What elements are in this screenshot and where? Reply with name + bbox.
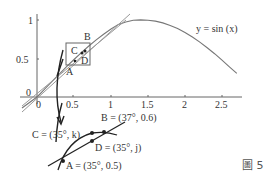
y-tick-1: 1 (28, 15, 33, 26)
y-tick-0: 0 (26, 87, 31, 98)
zoom-label-c: C = (35°, k) (32, 129, 80, 141)
zoom-point-a (61, 159, 65, 163)
label-d: D (81, 55, 88, 66)
x-tick-2: 2 (182, 99, 187, 110)
label-a: A (66, 66, 74, 77)
figure-caption: 圖 5 (242, 159, 264, 172)
zoom-label-a: A = (35°, 0.5) (66, 160, 121, 172)
point-b-dot (84, 50, 87, 53)
x-tick-2.5: 2.5 (215, 99, 228, 110)
x-tick-1.5: 1.5 (141, 99, 154, 110)
sine-diagram: 0 0.5 1 1.5 2 2.5 0 0.5 1 A B C D y = si… (0, 0, 264, 184)
zoom-point-d (90, 139, 94, 143)
x-tick-1: 1 (108, 99, 113, 110)
y-tick-0.5: 0.5 (16, 54, 29, 65)
zoom-point-c (90, 131, 94, 135)
point-a-dot (74, 60, 77, 63)
label-b: B (84, 31, 91, 42)
zoom-point-b (102, 130, 106, 134)
zoom-label-b: B = (37°, 0.6) (101, 112, 156, 124)
secant-line (22, 20, 126, 106)
x-tick-0.5: 0.5 (66, 99, 79, 110)
x-tick-0: 0 (36, 99, 41, 110)
label-c: C (71, 45, 78, 56)
zoom-label-d: D = (35°, j) (95, 142, 141, 154)
curve-label: y = sin (x) (196, 23, 237, 35)
